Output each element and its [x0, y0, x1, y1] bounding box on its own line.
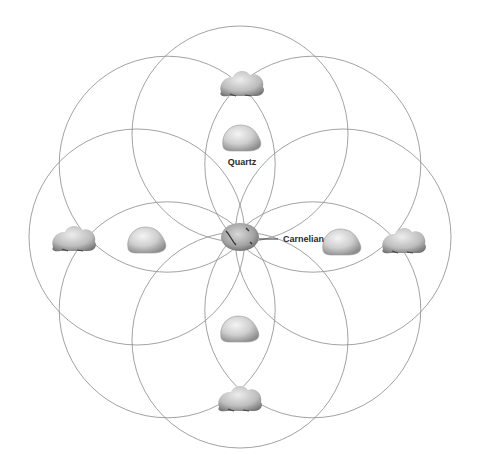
carnelian-center-stone	[221, 223, 259, 251]
carnelian-label: Carnelian	[283, 234, 324, 244]
quartz-cluster-right	[382, 228, 426, 253]
quartz-cluster-bottom	[218, 386, 262, 411]
quartz-cluster-top	[220, 71, 264, 96]
quartz-cluster-left	[52, 226, 96, 251]
tumbled-quartz-bottom	[221, 316, 259, 342]
crystal-grid-diagram: Quartz Carnelian	[0, 0, 482, 467]
tumbled-quartz-top	[223, 125, 261, 151]
tumbled-quartz-left	[128, 227, 166, 253]
tumbled-quartz-right	[323, 229, 361, 255]
quartz-label: Quartz	[228, 157, 257, 167]
